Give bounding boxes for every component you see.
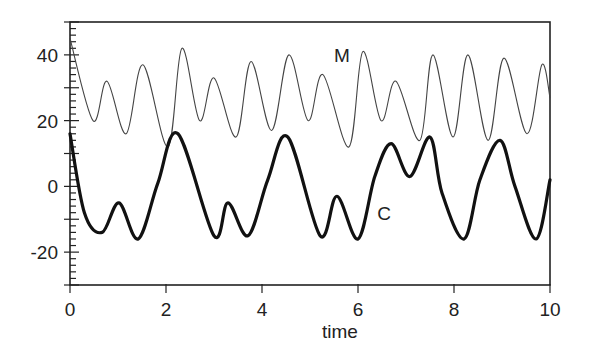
y-tick-label: -20 — [31, 242, 58, 263]
plot-area-border — [70, 22, 550, 285]
x-tick-label: 4 — [257, 299, 268, 320]
plot-frame — [70, 22, 550, 285]
x-tick-label: 6 — [353, 299, 364, 320]
x-tick-label: 2 — [161, 299, 172, 320]
series-c-label: C — [377, 203, 391, 224]
series-layer: MC — [70, 38, 550, 239]
x-tick-label: 8 — [449, 299, 460, 320]
series-m-line — [70, 38, 550, 147]
y-tick-label: 40 — [37, 45, 58, 66]
x-axis: 0246810 — [65, 284, 561, 320]
y-tick-label: 20 — [37, 111, 58, 132]
line-chart: -2002040 0246810 MC time — [0, 0, 610, 362]
series-m-label: M — [334, 45, 350, 66]
y-tick-label: 0 — [47, 176, 58, 197]
series-c-line — [70, 133, 550, 240]
x-tick-label: 10 — [539, 299, 560, 320]
x-axis-label: time — [322, 321, 358, 342]
x-tick-label: 0 — [65, 299, 76, 320]
